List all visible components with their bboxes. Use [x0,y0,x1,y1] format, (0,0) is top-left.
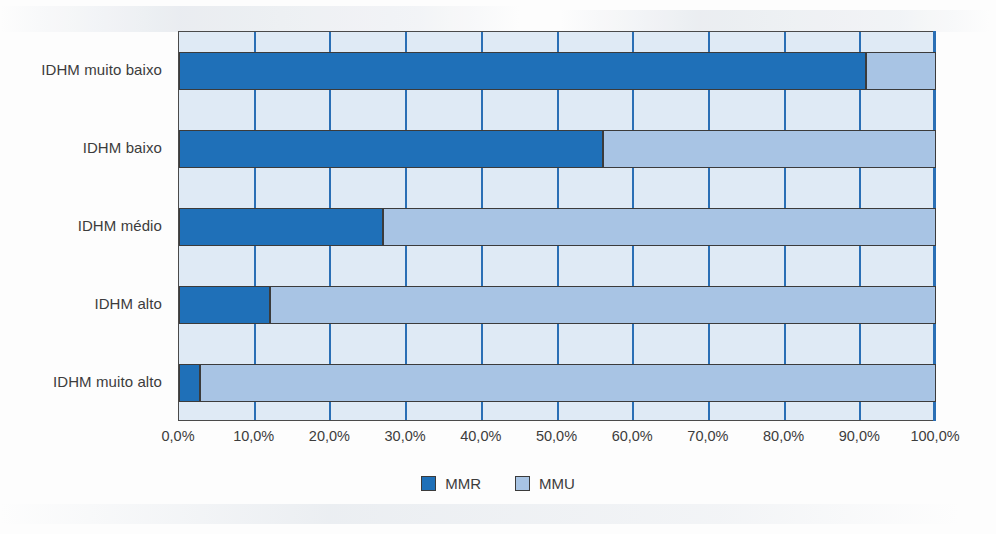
x-tick-label: 80,0% [763,428,804,444]
category-label: IDHM muito baixo [41,61,162,78]
legend-label: MMU [539,475,575,492]
x-tick-label: 30,0% [385,428,426,444]
x-tick-label: 20,0% [309,428,350,444]
bar-segment-mmr [179,52,866,90]
bar-segment-mmu [200,364,936,402]
bar-segment-mmu [603,130,936,168]
x-tick-label: 40,0% [460,428,501,444]
bar-row [179,286,934,324]
bar-segment-mmr [179,286,270,324]
x-tick-label: 10,0% [233,428,274,444]
x-tick-label: 50,0% [536,428,577,444]
x-tick-label: 90,0% [839,428,880,444]
bar-segment-mmu [866,52,936,90]
bar-segment-mmr [179,208,383,246]
category-label: IDHM alto [94,295,162,312]
category-label: IDHM médio [78,217,162,234]
value-axis-labels: 0,0%10,0%20,0%30,0%40,0%50,0%60,0%70,0%8… [0,428,996,452]
bar-row [179,130,934,168]
bar-segment-mmu [270,286,936,324]
x-tick-label: 100,0% [910,428,959,444]
category-axis-labels: IDHM muito baixoIDHM baixoIDHM médioIDHM… [0,31,172,421]
chart-legend: MMRMMU [0,475,996,492]
x-tick-label: 0,0% [161,428,194,444]
x-tick-label: 70,0% [687,428,728,444]
bar-segment-mmr [179,130,603,168]
bar-segment-mmr [179,364,200,402]
bar-segment-mmu [383,208,936,246]
bar-row [179,208,934,246]
bar-row [179,52,934,90]
legend-item-mmu[interactable]: MMU [515,475,575,492]
stacked-bar-chart: IDHM muito baixoIDHM baixoIDHM médioIDHM… [0,0,996,534]
legend-swatch-icon [421,476,436,491]
category-label: IDHM baixo [83,139,162,156]
legend-label: MMR [445,475,481,492]
legend-swatch-icon [515,476,530,491]
bar-row [179,364,934,402]
plot-area [178,31,935,421]
category-label: IDHM muito alto [53,373,162,390]
legend-item-mmr[interactable]: MMR [421,475,481,492]
x-tick-label: 60,0% [612,428,653,444]
